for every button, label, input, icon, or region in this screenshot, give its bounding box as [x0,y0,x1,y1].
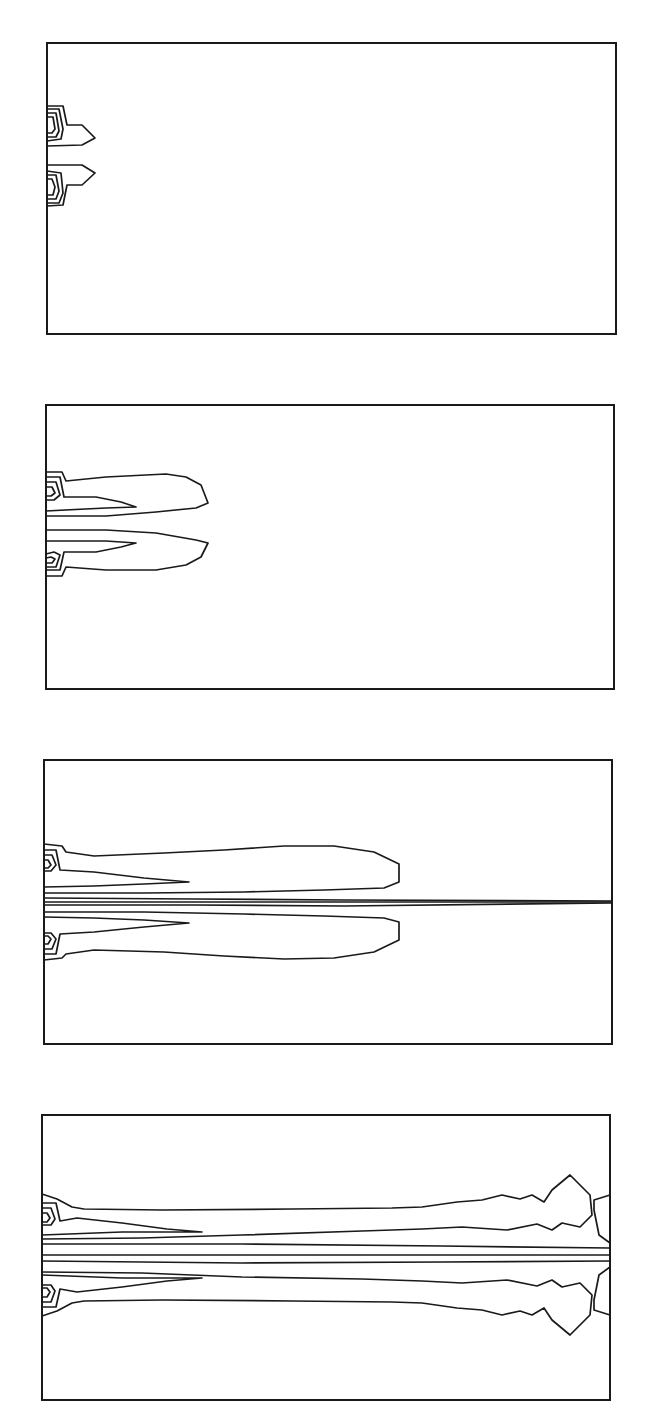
upper-plume-contours [44,844,612,901]
plot-frame [42,1115,610,1400]
contour-plot-1 [47,43,616,334]
right-boundary-upper-contour [594,1195,610,1243]
plot-frame [46,405,614,689]
contour-plot-4 [42,1115,610,1400]
upper-plume-contours [42,1175,610,1248]
upper-plume-contours [46,472,208,516]
lower-plume-contours [44,903,612,960]
lower-plume-contours [46,530,208,576]
contour-plot-2 [46,405,614,689]
plot-frame [47,43,616,334]
contour-panel-3 [44,760,612,1044]
contour-panel-1 [47,43,616,334]
contour-panel-2 [46,405,614,689]
lower-plume-contours [47,165,95,206]
contour-panel-4 [42,1115,610,1400]
lower-plume-contours [42,1261,610,1335]
right-boundary-lower-contour [594,1267,610,1315]
contour-plot-3 [44,760,612,1044]
upper-plume-contours [47,106,95,146]
